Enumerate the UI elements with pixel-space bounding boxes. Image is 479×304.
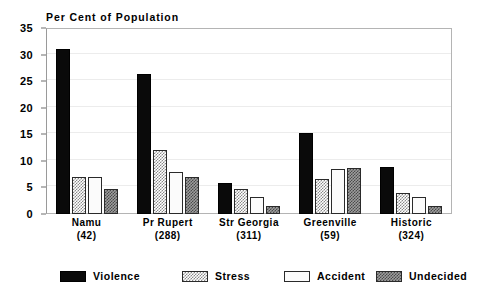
bar-undecided[interactable] [104, 189, 118, 215]
x-tick-category-name: Historic [371, 216, 452, 229]
bar-stress[interactable] [234, 189, 248, 214]
x-tick-label: Pr Rupert(288) [127, 216, 208, 242]
y-tick-label: 35 [20, 22, 33, 34]
y-tick-label: 15 [20, 128, 33, 140]
bar-accident[interactable] [88, 177, 102, 214]
x-tick-category-count: (42) [46, 229, 127, 242]
bar-accident[interactable] [412, 197, 426, 214]
legend-label: Stress [215, 270, 250, 282]
x-tick-category-name: Namu [46, 216, 127, 229]
bar-group [290, 28, 371, 214]
legend-item-violence[interactable]: Violence [60, 268, 140, 284]
bar-group [127, 28, 208, 214]
bar-violence[interactable] [137, 74, 151, 214]
x-tick-category-count: (311) [208, 229, 289, 242]
y-tick-label: 20 [20, 102, 33, 114]
legend-swatch-accident-icon [284, 271, 310, 282]
chart-legend: ViolenceStressAccidentUndecided [46, 268, 452, 288]
bar-undecided[interactable] [185, 177, 199, 214]
y-axis: 05101520253035 [0, 28, 42, 214]
bar-violence[interactable] [56, 49, 70, 214]
bar-undecided[interactable] [266, 206, 280, 214]
bar-group [208, 28, 289, 214]
bar-chart: Per Cent of Population 05101520253035 Na… [0, 0, 479, 304]
bar-group [371, 28, 452, 214]
bars-layer [46, 28, 452, 214]
bar-stress[interactable] [315, 179, 329, 214]
legend-label: Violence [93, 270, 140, 282]
legend-item-stress[interactable]: Stress [182, 268, 250, 284]
x-tick-category-count: (324) [371, 229, 452, 242]
x-tick-label: Greenville(59) [290, 216, 371, 242]
bar-undecided[interactable] [428, 206, 442, 215]
bar-accident[interactable] [250, 197, 264, 214]
legend-swatch-violence-icon [60, 271, 86, 282]
legend-item-accident[interactable]: Accident [284, 268, 365, 284]
y-tick-label: 0 [26, 208, 33, 220]
x-axis: Namu(42)Pr Rupert(288)Str Georgia(311)Gr… [46, 216, 452, 256]
bar-undecided[interactable] [347, 168, 361, 214]
bar-violence[interactable] [218, 183, 232, 214]
x-tick-category-name: Pr Rupert [127, 216, 208, 229]
bar-stress[interactable] [396, 193, 410, 214]
x-tick-label: Namu(42) [46, 216, 127, 242]
legend-swatch-stress-icon [182, 271, 208, 282]
bar-stress[interactable] [153, 150, 167, 214]
bar-violence[interactable] [299, 133, 313, 214]
legend-item-undecided[interactable]: Undecided [376, 268, 467, 284]
y-tick-label: 10 [20, 155, 33, 167]
bar-violence[interactable] [380, 167, 394, 214]
x-tick-label: Str Georgia(311) [208, 216, 289, 242]
x-tick-label: Historic(324) [371, 216, 452, 242]
bar-accident[interactable] [331, 169, 345, 214]
bar-stress[interactable] [72, 177, 86, 214]
y-tick-label: 25 [20, 75, 33, 87]
legend-swatch-undecided-icon [376, 271, 402, 282]
chart-title: Per Cent of Population [46, 11, 179, 23]
x-tick-category-name: Str Georgia [208, 216, 289, 229]
x-tick-category-count: (59) [290, 229, 371, 242]
bar-group [46, 28, 127, 214]
bar-accident[interactable] [169, 172, 183, 215]
y-tick-label: 5 [26, 181, 33, 193]
x-tick-category-name: Greenville [290, 216, 371, 229]
legend-label: Undecided [409, 270, 467, 282]
y-tick-label: 30 [20, 49, 33, 61]
x-tick-category-count: (288) [127, 229, 208, 242]
legend-label: Accident [317, 270, 365, 282]
